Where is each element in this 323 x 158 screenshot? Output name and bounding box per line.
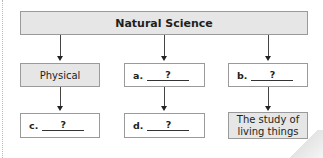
arrow-down-icon bbox=[161, 56, 167, 61]
answer-blank-b: ? bbox=[251, 70, 293, 81]
arrow-down-icon bbox=[57, 56, 63, 61]
arrow-down-icon bbox=[161, 106, 167, 111]
letter-c: c. bbox=[29, 120, 38, 131]
root-label: Natural Science bbox=[115, 17, 213, 30]
box-c-blank: c. ? bbox=[20, 113, 100, 138]
connector-line bbox=[268, 35, 269, 57]
connector-line bbox=[60, 87, 61, 107]
box-d-blank: d. ? bbox=[124, 113, 205, 138]
answer-blank-d: ? bbox=[147, 120, 189, 131]
margin-dotted-line bbox=[2, 0, 3, 158]
answer-blank-c: ? bbox=[42, 120, 84, 131]
arrow-down-icon bbox=[265, 106, 271, 111]
physical-label: Physical bbox=[40, 70, 81, 81]
box-a-blank: a. ? bbox=[124, 63, 205, 87]
connector-line bbox=[268, 87, 269, 107]
letter-d: d. bbox=[133, 120, 143, 131]
root-box-natural-science: Natural Science bbox=[20, 11, 308, 35]
box-b-blank: b. ? bbox=[228, 63, 308, 87]
arrow-down-icon bbox=[265, 56, 271, 61]
living-things-line1: The study of bbox=[237, 114, 299, 126]
page-curl bbox=[283, 130, 323, 158]
connector-line bbox=[60, 35, 61, 57]
connector-line bbox=[164, 87, 165, 107]
answer-blank-a: ? bbox=[147, 70, 189, 81]
connector-line bbox=[164, 35, 165, 57]
arrow-down-icon bbox=[57, 106, 63, 111]
letter-b: b. bbox=[237, 70, 247, 81]
box-physical: Physical bbox=[20, 63, 100, 87]
letter-a: a. bbox=[133, 70, 143, 81]
